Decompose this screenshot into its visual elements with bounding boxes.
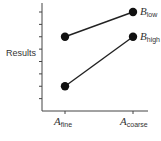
x-tick-label-coarse: Acoarse xyxy=(120,115,148,128)
data-point-marker xyxy=(61,33,69,41)
data-point-marker xyxy=(129,33,137,41)
series-label-sub: high xyxy=(147,36,160,43)
series-label-b-low: Blow xyxy=(140,5,157,18)
x-tick-label-main: A xyxy=(120,115,127,127)
data-points xyxy=(61,8,137,91)
series-label-sub: low xyxy=(147,11,158,18)
data-point-marker xyxy=(129,8,137,16)
series-line-b-high xyxy=(65,37,133,87)
x-tick-label-fine: Afine xyxy=(54,115,72,128)
x-tick-label-main: A xyxy=(54,115,61,127)
data-point-marker xyxy=(61,82,69,90)
y-axis-label: Results xyxy=(6,48,36,58)
series-label-main: B xyxy=(140,30,147,42)
x-tick-label-sub: fine xyxy=(61,121,72,128)
series-label-b-high: Bhigh xyxy=(140,30,160,43)
axes xyxy=(39,3,148,114)
series-line-b-low xyxy=(65,12,133,37)
series-lines xyxy=(65,12,133,86)
x-tick-label-sub: coarse xyxy=(127,121,148,128)
series-label-main: B xyxy=(140,5,147,17)
